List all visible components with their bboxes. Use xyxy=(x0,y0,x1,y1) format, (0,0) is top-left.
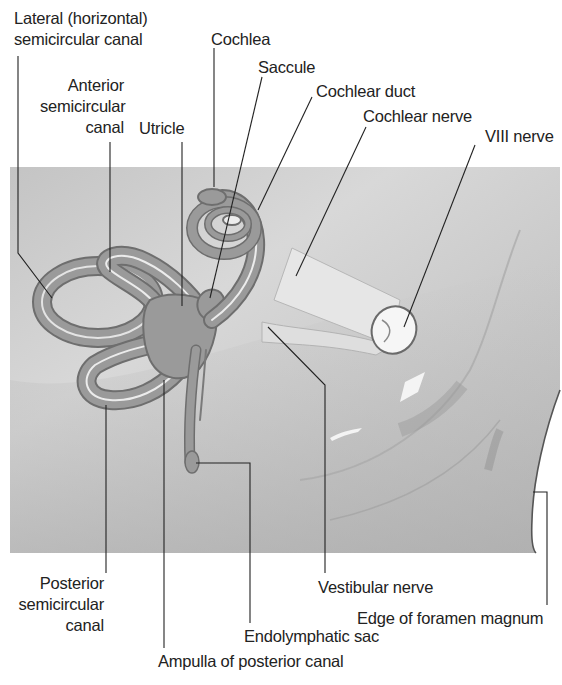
leader-foramen-magnum xyxy=(533,492,547,605)
label-viii-nerve: VIII nerve xyxy=(485,126,554,147)
label-anterior-semicircular-canal: Anterior semicircular canal xyxy=(40,75,124,138)
label-endolymphatic-sac: Endolymphatic sac xyxy=(244,626,379,647)
label-saccule: Saccule xyxy=(258,57,315,78)
label-cochlear-nerve: Cochlear nerve xyxy=(363,106,472,127)
label-cochlea: Cochlea xyxy=(211,29,270,50)
label-edge-of-foramen-magnum: Edge of foramen magnum xyxy=(357,608,543,629)
label-cochlear-duct: Cochlear duct xyxy=(316,81,415,102)
label-vestibular-nerve: Vestibular nerve xyxy=(318,577,433,598)
label-ampulla-of-posterior-canal: Ampulla of posterior canal xyxy=(158,651,344,672)
label-utricle: Utricle xyxy=(139,118,184,139)
label-lateral-semicircular-canal: Lateral (horizontal) semicircular canal xyxy=(14,8,148,50)
label-posterior-semicircular-canal: Posterior semicircular canal xyxy=(10,573,104,636)
